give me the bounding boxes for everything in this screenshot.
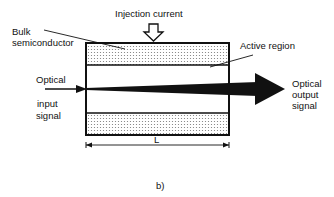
bulk-label-line2: semiconductor [12, 37, 74, 48]
bulk-label-line1: Bulk [12, 26, 30, 37]
signal-beam [86, 82, 258, 96]
output-label-line2: output [292, 89, 318, 100]
figure-caption: b) [156, 180, 164, 191]
output-label-line3: signal [292, 100, 317, 111]
input-label-line3: signal [36, 110, 61, 121]
active-region-label: Active region [240, 40, 295, 51]
top-bulk-layer [87, 44, 229, 65]
input-label-line2: input [37, 98, 58, 109]
bottom-bulk-layer [87, 113, 229, 135]
input-label-line1: Optical [36, 74, 66, 85]
output-arrowhead-icon [255, 73, 285, 105]
length-label: L [154, 134, 159, 145]
injection-arrow-icon [144, 24, 163, 41]
injection-current-label: Injection current [115, 8, 183, 19]
output-label-line1: Optical [292, 78, 322, 89]
